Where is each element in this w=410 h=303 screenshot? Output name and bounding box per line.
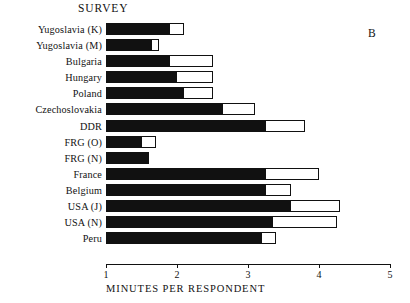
bar <box>106 136 156 148</box>
x-tick-label: 5 <box>387 269 392 280</box>
bar-segment-inner <box>106 216 273 228</box>
x-axis-label: MINUTES PER RESPONDENT <box>106 283 265 294</box>
bar-row: Yugoslavia (K) <box>0 22 410 38</box>
x-tick <box>319 264 320 268</box>
bar-segment-inner <box>106 168 266 180</box>
bar <box>106 184 291 196</box>
category-label: Yugoslavia (K) <box>38 23 102 36</box>
category-label: FRG (O) <box>64 136 102 149</box>
bar <box>106 168 319 180</box>
x-tick <box>248 264 249 268</box>
x-tick <box>390 264 391 268</box>
bar-row: Belgium <box>0 183 410 199</box>
bar <box>106 87 213 99</box>
bar-row: USA (N) <box>0 215 410 231</box>
bar-row: France <box>0 167 410 183</box>
bar <box>106 216 337 228</box>
bar-row: Peru <box>0 231 410 247</box>
bar-segment-inner <box>106 71 177 83</box>
bar-row: FRG (O) <box>0 135 410 151</box>
bar-row: FRG (N) <box>0 151 410 167</box>
x-tick-label: 2 <box>174 269 179 280</box>
bar <box>106 232 276 244</box>
category-label: USA (N) <box>64 216 102 229</box>
bar-row: DDR <box>0 119 410 135</box>
bar <box>106 103 255 115</box>
category-label: Peru <box>83 232 102 245</box>
category-label: France <box>73 168 102 181</box>
category-label: Hungary <box>65 71 102 84</box>
bar <box>106 120 305 132</box>
category-label: FRG (N) <box>64 152 102 165</box>
category-label: DDR <box>80 120 102 133</box>
bar-row: USA (J) <box>0 199 410 215</box>
x-tick-label: 3 <box>245 269 250 280</box>
bar-segment-inner <box>106 39 152 51</box>
chart-figure: SURVEY B Yugoslavia (K)Yugoslavia (M)Bul… <box>0 0 410 303</box>
category-label: Bulgaria <box>66 55 102 68</box>
x-tick <box>106 264 107 268</box>
bar <box>106 71 213 83</box>
bar-row: Poland <box>0 86 410 102</box>
bar-row: Bulgaria <box>0 54 410 70</box>
bar-segment-inner <box>106 184 266 196</box>
x-tick-label: 4 <box>316 269 321 280</box>
x-tick <box>177 264 178 268</box>
bar-row: Hungary <box>0 70 410 86</box>
bar <box>106 55 213 67</box>
bar-rows: Yugoslavia (K)Yugoslavia (M)BulgariaHung… <box>0 22 410 247</box>
category-label: Yugoslavia (M) <box>36 39 102 52</box>
bar-row: Yugoslavia (M) <box>0 38 410 54</box>
bar-segment-inner <box>106 55 170 67</box>
category-label: Poland <box>73 87 102 100</box>
bar <box>106 152 149 164</box>
bar-segment-inner <box>106 232 262 244</box>
category-label: Czechoslovakia <box>35 103 102 116</box>
bar-segment-inner <box>106 87 184 99</box>
bar <box>106 23 184 35</box>
bar <box>106 39 159 51</box>
bar-row: Czechoslovakia <box>0 102 410 118</box>
bar-segment-inner <box>106 103 223 115</box>
bar-segment-inner <box>106 136 142 148</box>
bar-segment-inner <box>106 152 149 164</box>
category-label: Belgium <box>66 184 102 197</box>
bar-segment-inner <box>106 23 170 35</box>
category-label: USA (J) <box>68 200 102 213</box>
bar <box>106 200 340 212</box>
chart-title: SURVEY <box>78 2 129 14</box>
x-tick-label: 1 <box>103 269 108 280</box>
bar-segment-inner <box>106 120 266 132</box>
bar-segment-inner <box>106 200 291 212</box>
